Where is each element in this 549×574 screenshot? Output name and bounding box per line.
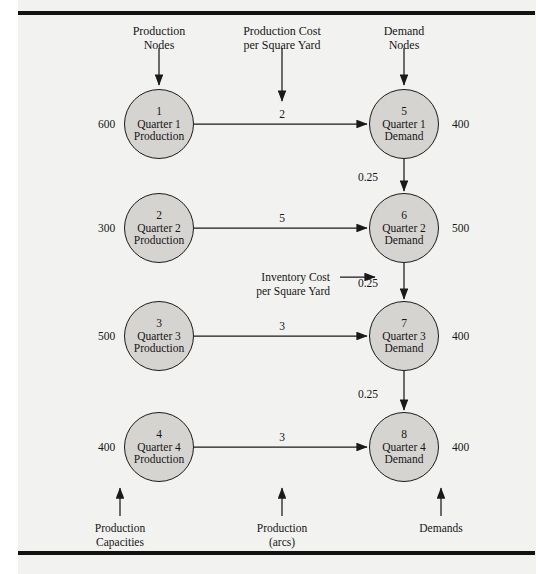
header-label-2: Production Cost per Square Yard [243,24,321,53]
node-id-label: 8 [401,428,407,441]
node-id-label: 5 [401,105,407,118]
node-line2-label: Demand [385,130,424,143]
node-line2-label: Demand [385,453,424,466]
node-2-production[interactable]: 2Quarter 2Production [124,193,194,263]
node-id-label: 3 [156,317,162,330]
inventory-cost-label-5-6: 0.25 [358,171,378,184]
node-line1-label: Quarter 2 [137,222,181,235]
node-id-label: 2 [156,209,162,222]
footer-label-1: Production Capacities [95,522,145,550]
node-id-label: 6 [401,209,407,222]
supply-value-2: 300 [98,222,115,234]
node-line1-label: Quarter 4 [137,441,181,454]
demand-value-3: 400 [452,330,469,342]
node-id-label: 4 [156,428,162,441]
supply-value-4: 400 [98,441,115,453]
demand-value-1: 400 [452,118,469,130]
header-label-1: Production Nodes [133,24,186,53]
node-5-demand[interactable]: 5Quarter 1Demand [369,89,439,159]
inventory-cost-annotation: Inventory Cost per Square Yard [256,271,330,299]
supply-value-3: 500 [98,330,115,342]
production-cost-label-1-5: 2 [279,108,285,121]
demand-value-2: 500 [452,222,469,234]
node-id-label: 7 [401,317,407,330]
inventory-cost-label-6-7: 0.25 [358,277,378,290]
node-3-production[interactable]: 3Quarter 3Production [124,301,194,371]
node-7-demand[interactable]: 7Quarter 3Demand [369,301,439,371]
node-8-demand[interactable]: 8Quarter 4Demand [369,412,439,482]
node-line2-label: Production [134,342,184,355]
inventory-cost-label-7-8: 0.25 [358,388,378,401]
node-line2-label: Production [134,453,184,466]
footer-label-2: Production (arcs) [257,522,307,550]
footer-label-3: Demands [419,522,462,536]
production-cost-label-4-8: 3 [279,431,285,444]
node-line1-label: Quarter 2 [382,222,426,235]
supply-value-1: 600 [98,118,115,130]
node-1-production[interactable]: 1Quarter 1Production [124,89,194,159]
production-cost-label-2-6: 5 [279,212,285,225]
network-flow-diagram: 1Quarter 1Production2Quarter 2Production… [0,0,549,574]
node-line2-label: Production [134,130,184,143]
node-line2-label: Production [134,234,184,247]
node-6-demand[interactable]: 6Quarter 2Demand [369,193,439,263]
node-id-label: 1 [156,105,162,118]
node-line1-label: Quarter 3 [137,330,181,343]
node-line1-label: Quarter 1 [137,118,181,131]
node-line2-label: Demand [385,234,424,247]
node-line1-label: Quarter 1 [382,118,426,131]
node-4-production[interactable]: 4Quarter 4Production [124,412,194,482]
demand-value-4: 400 [452,441,469,453]
node-line2-label: Demand [385,342,424,355]
node-line1-label: Quarter 4 [382,441,426,454]
production-cost-label-3-7: 3 [279,320,285,333]
node-line1-label: Quarter 3 [382,330,426,343]
header-label-3: Demand Nodes [384,24,425,53]
